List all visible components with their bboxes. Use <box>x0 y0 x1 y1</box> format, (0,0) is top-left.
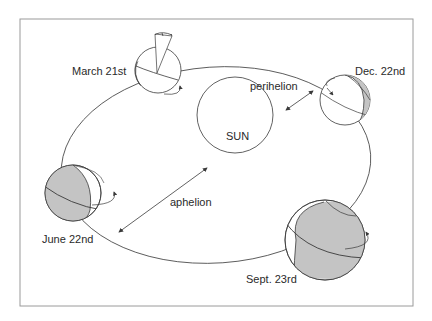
sun-label: SUN <box>226 131 249 142</box>
december-label: Dec. 22nd <box>355 66 405 77</box>
earth-december <box>320 73 372 127</box>
diagram-canvas <box>0 0 432 321</box>
aphelion-label: aphelion <box>170 197 212 208</box>
earth-orbit-diagram: SUN perihelion aphelion March 21st Dec. … <box>0 0 432 321</box>
earth-september <box>285 200 370 280</box>
june-label: June 22nd <box>42 234 93 245</box>
earth-march <box>135 33 181 95</box>
march-label: March 21st <box>72 66 126 77</box>
perihelion-label: perihelion <box>250 81 298 92</box>
september-label: Sept. 23rd <box>246 274 297 285</box>
earth-june <box>40 165 115 221</box>
perihelion-arrow <box>286 91 313 110</box>
